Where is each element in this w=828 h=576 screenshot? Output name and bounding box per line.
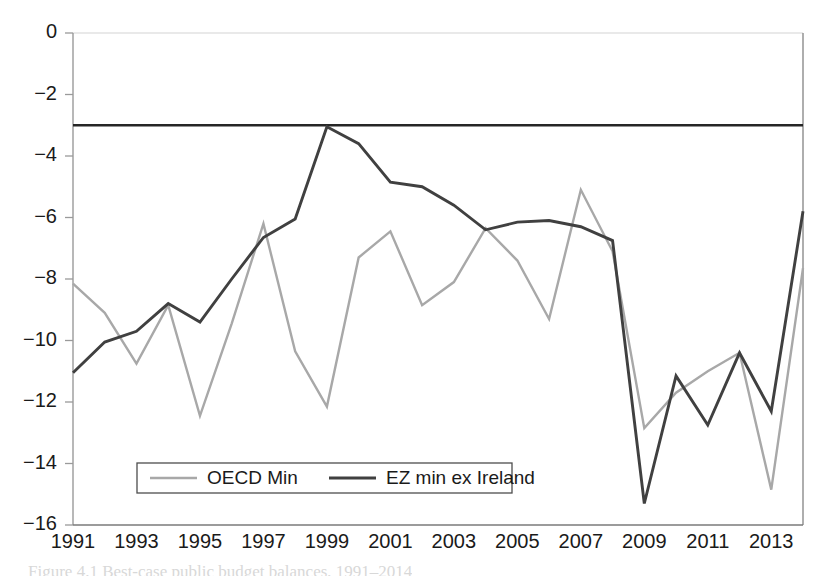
y-tick-label: −8 — [34, 266, 57, 288]
x-tick-label: 2007 — [559, 530, 604, 552]
x-tick-label: 1993 — [114, 530, 159, 552]
x-tick-label: 2011 — [686, 530, 729, 552]
legend-label: OECD Min — [207, 467, 298, 488]
legend-label: EZ min ex Ireland — [386, 467, 535, 488]
x-tick-label: 2005 — [495, 530, 540, 552]
figure-caption: Figure 4.1 Best-case public budget balan… — [28, 562, 412, 576]
x-axis: 1991199319951997199920012003200520072009… — [51, 530, 794, 552]
x-tick-label: 1997 — [241, 530, 286, 552]
line-chart: 0−2−4−6−8−10−12−14−16 199119931995199719… — [0, 0, 828, 576]
chart-legend[interactable]: OECD Min EZ min ex Ireland — [137, 463, 535, 493]
y-tick-label: −14 — [23, 451, 57, 473]
y-tick-label: −10 — [23, 328, 57, 350]
x-tick-label: 1999 — [305, 530, 350, 552]
figure-container: 0−2−4−6−8−10−12−14−16 199119931995199719… — [0, 0, 828, 576]
y-tick-label: −2 — [34, 82, 57, 104]
plot-background — [73, 33, 803, 525]
y-tick-label: 0 — [46, 20, 57, 42]
x-tick-label: 2009 — [622, 530, 667, 552]
x-tick-label: 1991 — [51, 530, 96, 552]
y-tick-label: −4 — [34, 143, 57, 165]
x-tick-label: 2001 — [368, 530, 413, 552]
x-tick-label: 1995 — [178, 530, 223, 552]
x-tick-label: 2013 — [749, 530, 794, 552]
y-tick-label: −12 — [23, 389, 57, 411]
x-tick-label: 2003 — [432, 530, 477, 552]
y-tick-label: −6 — [34, 205, 57, 227]
y-axis: 0−2−4−6−8−10−12−14−16 — [23, 20, 73, 534]
